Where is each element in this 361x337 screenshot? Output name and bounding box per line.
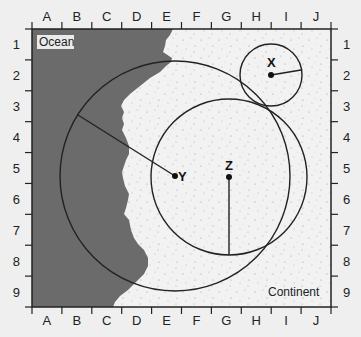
column-label-i: I [284, 313, 288, 328]
column-label-f: F [192, 313, 200, 328]
row-label-6: 6 [13, 192, 20, 207]
station-x-dot [268, 72, 274, 78]
ocean-label: Ocean [39, 35, 74, 49]
row-label-2: 2 [343, 68, 350, 83]
row-label-1: 1 [343, 37, 350, 52]
row-label-3: 3 [343, 99, 350, 114]
row-label-4: 4 [13, 130, 20, 145]
row-label-3: 3 [13, 99, 20, 114]
column-label-g: G [221, 313, 231, 328]
row-label-8: 8 [343, 254, 350, 269]
column-label-h: H [252, 9, 261, 24]
row-labels-left: 123456789 [13, 37, 20, 299]
column-label-c: C [102, 313, 111, 328]
column-labels-bottom: ABCDEFGHIJ [43, 313, 320, 328]
column-labels-top: ABCDEFGHIJ [43, 9, 320, 24]
row-label-1: 1 [13, 37, 20, 52]
row-label-8: 8 [13, 254, 20, 269]
column-label-b: B [73, 9, 82, 24]
station-z-dot [226, 174, 232, 180]
row-labels-right: 123456789 [343, 37, 350, 299]
column-label-e: E [162, 313, 171, 328]
column-label-a: A [43, 9, 52, 24]
column-label-h: H [252, 313, 261, 328]
station-y-label: Y [178, 169, 187, 184]
column-label-d: D [132, 9, 141, 24]
row-label-5: 5 [13, 161, 20, 176]
column-label-j: J [313, 9, 320, 24]
row-label-7: 7 [13, 223, 20, 238]
column-label-e: E [162, 9, 171, 24]
row-label-4: 4 [343, 130, 350, 145]
row-label-9: 9 [343, 285, 350, 300]
column-label-b: B [73, 313, 82, 328]
earthquake-map: ABCDEFGHIJ ABCDEFGHIJ 123456789 12345678… [0, 0, 361, 337]
row-label-6: 6 [343, 192, 350, 207]
row-label-5: 5 [343, 161, 350, 176]
column-label-f: F [192, 9, 200, 24]
continent-label: Continent [268, 285, 320, 299]
row-label-2: 2 [13, 68, 20, 83]
column-label-g: G [221, 9, 231, 24]
column-label-c: C [102, 9, 111, 24]
column-label-a: A [43, 313, 52, 328]
column-label-d: D [132, 313, 141, 328]
column-label-i: I [284, 9, 288, 24]
row-label-7: 7 [343, 223, 350, 238]
row-label-9: 9 [13, 285, 20, 300]
column-label-j: J [313, 313, 320, 328]
station-x-label: X [267, 55, 276, 70]
station-z-label: Z [225, 158, 233, 173]
